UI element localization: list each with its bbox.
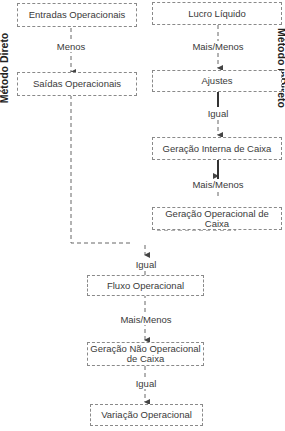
box-variacao-operacional: Variação Operacional (90, 404, 203, 426)
label-mais-menos-1: Mais/Menos (191, 41, 244, 52)
box-entradas-operacionais: Entradas Operacionais (17, 3, 137, 27)
label-igual-3: Igual (135, 378, 158, 389)
label-menos: Menos (56, 41, 87, 52)
box-saidas-operacionais: Saídas Operacionais (17, 72, 137, 96)
box-geracao-interna-de-caixa: Geração Interna de Caixa (152, 137, 282, 160)
box-fluxo-operacional: Fluxo Operacional (87, 275, 204, 296)
left-method-title: Método Direto (0, 33, 10, 104)
label-mais-menos-2: Mais/Menos (191, 179, 244, 190)
right-method-title: Método inDireto (276, 28, 285, 108)
label-igual-2: Igual (135, 259, 158, 270)
box-lucro-liquido: Lucro Líquido (152, 2, 282, 25)
box-geracao-operacional-de-caixa: Geração Operacional de Caixa (152, 207, 282, 230)
label-mais-menos-3: Mais/Menos (119, 314, 172, 325)
box-ajustes: Ajustes (152, 70, 282, 92)
label-igual-1: Igual (207, 108, 230, 119)
box-geracao-nao-operacional-de-caixa: Geração Não Operacional de Caixa (87, 342, 204, 366)
